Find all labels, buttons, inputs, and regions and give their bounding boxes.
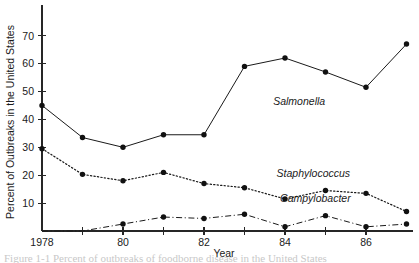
data-point-staphylococcus [201,181,206,186]
data-point-salmonella [161,132,166,137]
y-tick-label: 20 [22,169,34,181]
figure-caption: Figure 1-1 Percent of outbreaks of foodb… [4,254,327,263]
series-annotations: SalmonellaStaphylococcusCampylobacter [273,95,351,203]
x-axis-tick-labels: 197880828486 [30,236,372,248]
x-tick-label: 86 [360,236,372,248]
y-axis-tick-labels: 10203040506070 [22,30,34,209]
data-point-staphylococcus [161,170,166,175]
figure-caption-strip: Figure 1-1 Percent of outbreaks of foodb… [0,254,419,263]
data-point-campylobacter [161,214,166,219]
x-tick-label: 1978 [30,236,54,248]
y-tick-label: 70 [22,30,34,42]
data-point-staphylococcus [242,185,247,190]
x-tick-label: 82 [198,236,210,248]
series-line-salmonella [42,44,407,147]
y-tick-label: 40 [22,113,34,125]
data-point-campylobacter [323,213,328,218]
series-label-staphylococcus: Staphylococcus [277,167,351,179]
data-point-salmonella [80,135,85,140]
x-tick-label: 84 [279,236,291,248]
y-tick-label: 60 [22,57,34,69]
data-point-salmonella [120,145,125,150]
data-point-staphylococcus [404,209,409,214]
series-label-salmonella: Salmonella [273,95,325,107]
series-label-campylobacter: Campylobacter [280,192,351,204]
data-point-campylobacter [282,224,287,229]
y-axis-title: Percent of Outbreaks in the United State… [4,25,16,219]
data-point-staphylococcus [39,146,44,151]
figure-container: 10203040506070 197880828486 SalmonellaSt… [0,0,419,263]
data-point-campylobacter [201,216,206,221]
data-point-salmonella [282,55,287,60]
data-point-salmonella [201,132,206,137]
x-tick-label: 80 [117,236,129,248]
data-point-staphylococcus [80,172,85,177]
data-point-campylobacter [242,212,247,217]
series-markers [39,41,409,229]
axis-titles: Percent of Outbreaks in the United State… [4,25,235,259]
data-point-salmonella [242,64,247,69]
data-point-salmonella [323,69,328,74]
y-tick-label: 50 [22,85,34,97]
axes [42,5,413,231]
data-point-campylobacter [120,221,125,226]
data-point-campylobacter [363,224,368,229]
data-point-staphylococcus [120,178,125,183]
data-point-campylobacter [404,221,409,226]
series-line-campylobacter [42,214,407,231]
series-lines [42,44,407,231]
series-line-staphylococcus [42,149,407,212]
data-point-staphylococcus [363,191,368,196]
y-tick-label: 10 [22,197,34,209]
data-point-salmonella [363,85,368,90]
data-point-salmonella [39,103,44,108]
y-tick-label: 30 [22,141,34,153]
line-chart: 10203040506070 197880828486 SalmonellaSt… [0,0,419,263]
data-point-salmonella [404,41,409,46]
